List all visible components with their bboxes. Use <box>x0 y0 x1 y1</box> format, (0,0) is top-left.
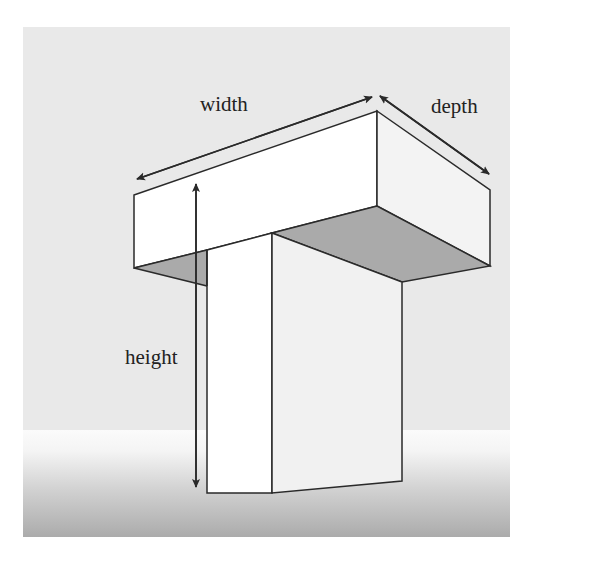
width-label: width <box>200 92 248 117</box>
column-front-face <box>207 233 272 493</box>
t-block-figure <box>0 0 598 562</box>
height-label: height <box>125 345 178 370</box>
depth-label: depth <box>431 94 478 119</box>
